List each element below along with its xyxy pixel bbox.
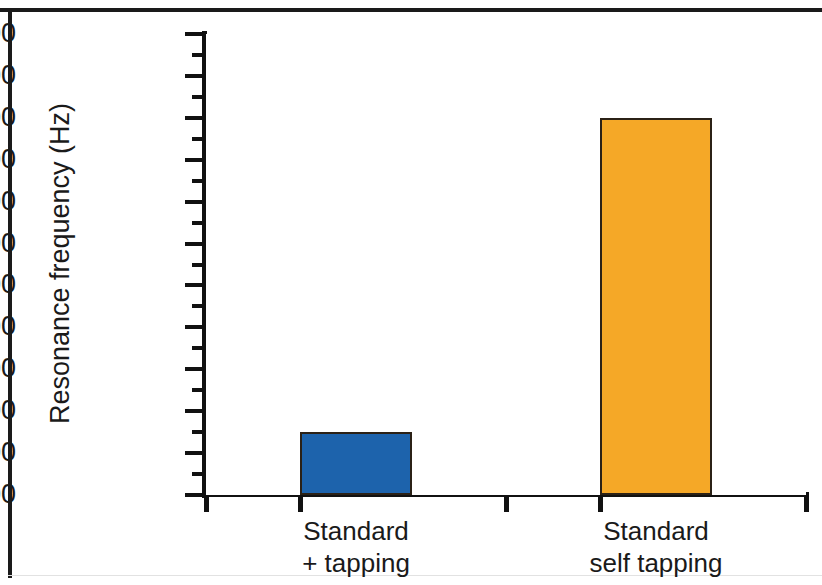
y-axis-major-tick: [185, 283, 202, 287]
y-axis-minor-tick: [192, 472, 202, 476]
x-axis-category-label: Standardself tapping: [506, 516, 806, 579]
y-axis-tick-label: 7800: [0, 62, 16, 89]
y-axis-tick-label: 8000: [0, 20, 16, 47]
y-axis-major-tick: [185, 32, 202, 36]
y-axis-major-tick: [185, 367, 202, 371]
y-axis-tick-label: 7000: [0, 230, 16, 257]
y-axis-minor-tick: [192, 263, 202, 267]
y-axis-major-tick: [185, 409, 202, 413]
y-axis-tick-label: 7600: [0, 104, 16, 131]
y-axis-major-tick: [185, 242, 202, 246]
x-axis-tick: [504, 492, 509, 512]
y-axis-major-tick: [185, 493, 202, 497]
bar-chart-figure: Resonance frequency (Hz) 800078007600740…: [0, 0, 822, 585]
y-axis-major-tick: [185, 158, 202, 162]
y-axis-minor-tick: [192, 179, 202, 183]
x-axis-tick: [598, 492, 603, 512]
y-axis-major-tick: [185, 200, 202, 204]
y-axis-tick-label: 6200: [0, 397, 16, 424]
y-axis-ticks-group: 8000780076007400720070006800660064006200…: [0, 0, 202, 585]
y-axis-tick-label: 6000: [0, 439, 16, 466]
y-axis-minor-tick: [192, 304, 202, 308]
bar-standard-self-tapping: [600, 118, 712, 495]
x-axis-tick: [804, 492, 809, 512]
y-axis-tick-label: 6800: [0, 271, 16, 298]
y-axis-tick-label: 6400: [0, 355, 16, 382]
y-axis-tick-label: 7200: [0, 188, 16, 215]
y-axis-minor-tick: [192, 137, 202, 141]
y-axis-major-tick: [185, 116, 202, 120]
y-axis-major-tick: [185, 451, 202, 455]
y-axis-minor-tick: [192, 95, 202, 99]
y-axis-minor-tick: [192, 388, 202, 392]
y-axis-major-tick: [185, 325, 202, 329]
x-axis-tick: [298, 492, 303, 512]
plot-area: [206, 34, 806, 495]
y-axis-tick-label: 7400: [0, 146, 16, 173]
bar-standard-plus-tapping: [300, 432, 412, 495]
y-axis-tick-label: 6600: [0, 313, 16, 340]
y-axis-minor-tick: [192, 430, 202, 434]
y-axis-minor-tick: [192, 53, 202, 57]
y-axis-minor-tick: [192, 221, 202, 225]
x-axis-category-label: Standard+ tapping: [206, 516, 506, 579]
y-axis-major-tick: [185, 74, 202, 78]
y-axis-minor-tick: [192, 346, 202, 350]
y-axis-tick-label: 5800: [0, 481, 16, 508]
x-axis-tick: [204, 492, 209, 512]
